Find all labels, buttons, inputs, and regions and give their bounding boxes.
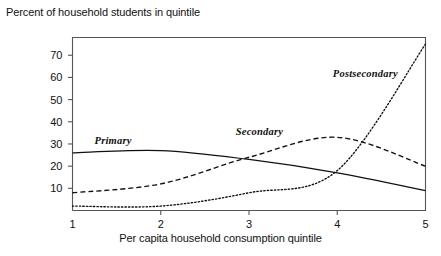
series-label-postsecondary: Postsecondary <box>333 68 398 79</box>
x-tick-label: 3 <box>239 218 259 230</box>
series-label-primary: Primary <box>95 135 132 146</box>
y-tick-label: 40 <box>29 116 63 128</box>
x-tick-label: 1 <box>63 218 83 230</box>
plot-frame <box>73 38 426 211</box>
x-axis-title: Per capita household consumption quintil… <box>0 232 441 244</box>
y-tick-label: 30 <box>29 138 63 150</box>
y-tick-label: 50 <box>29 94 63 106</box>
series-line-primary <box>73 150 426 190</box>
x-tick-label: 5 <box>416 218 436 230</box>
y-tick-label: 20 <box>29 160 63 172</box>
y-tick-label: 70 <box>29 49 63 61</box>
x-tick-label: 2 <box>151 218 171 230</box>
x-tick-label: 4 <box>327 218 347 230</box>
series-label-secondary: Secondary <box>236 126 283 137</box>
y-tick-label: 60 <box>29 71 63 83</box>
chart-container: Percent of household students in quintil… <box>0 0 441 256</box>
y-tick-label: 10 <box>29 182 63 194</box>
